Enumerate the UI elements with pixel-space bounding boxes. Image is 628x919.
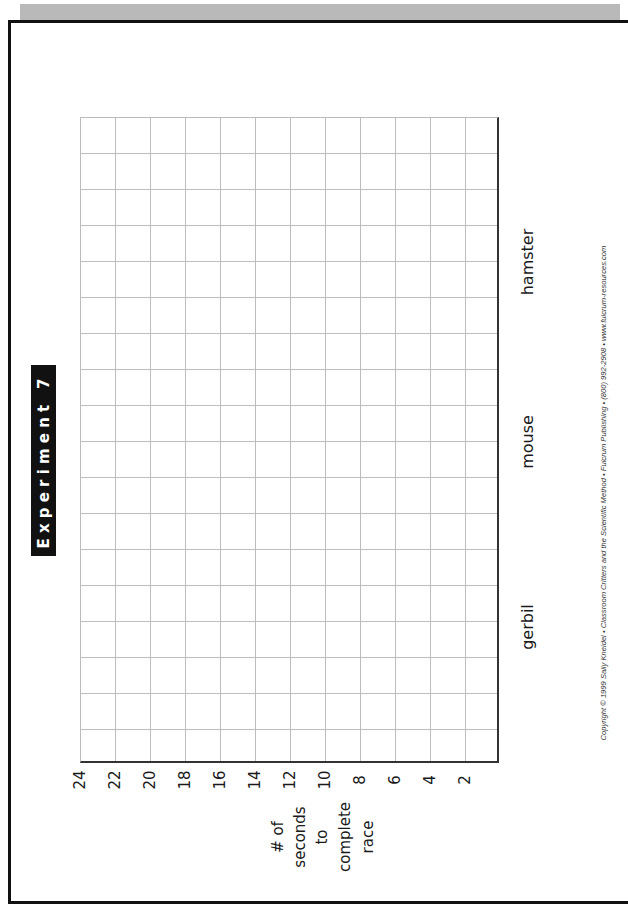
- tick-label: 20: [138, 768, 162, 792]
- tick-label: 24: [68, 768, 92, 792]
- value-axis-title: # of seconds to complete race: [262, 800, 386, 874]
- copyright-notice: Copyright © 1999 Sally Kneidel • Classro…: [597, 200, 609, 785]
- category-label-mouse: mouse: [515, 412, 539, 472]
- axis-title-line: complete: [338, 802, 353, 872]
- tick-label: 6: [383, 768, 407, 792]
- tick-label: 16: [208, 768, 232, 792]
- tick-label: 22: [103, 768, 127, 792]
- top-gray-bar: [20, 4, 620, 20]
- chart-grid: [80, 117, 499, 763]
- tick-label: 18: [173, 768, 197, 792]
- tick-label: 14: [243, 768, 267, 792]
- tick-label: 2: [453, 768, 477, 792]
- title-banner: Experiment 7: [31, 365, 56, 556]
- axis-title-line: # of: [271, 821, 286, 853]
- category-label-gerbil: gerbil: [515, 597, 539, 657]
- axis-title-line: to: [315, 829, 330, 844]
- category-label-hamster: hamster: [515, 232, 539, 292]
- tick-label: 12: [278, 768, 302, 792]
- tick-label: 8: [348, 768, 372, 792]
- chart-title: Experiment 7: [35, 373, 53, 548]
- axis-title-line: seconds: [293, 806, 308, 867]
- tick-label: 10: [313, 768, 337, 792]
- axis-title-line: race: [361, 821, 376, 854]
- tick-label: 4: [418, 768, 442, 792]
